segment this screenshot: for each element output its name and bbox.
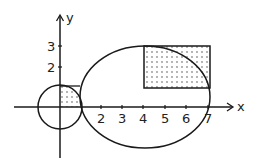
y-tick-label: 2 [47,60,55,75]
x-tick-label: 7 [204,111,212,126]
x-tick-label: 4 [139,111,147,126]
coordinate-diagram: x y 2 3 4 5 6 7 3 2 [0,0,256,163]
y-axis-label: y [66,10,74,25]
dotted-circle-quadrant [60,86,81,107]
x-axis-label: x [237,99,245,114]
x-tick-label: 2 [97,111,105,126]
x-tick-label: 3 [118,111,126,126]
x-tick-label: 5 [161,111,169,126]
x-tick-label: 6 [182,111,190,126]
y-tick-label: 3 [47,39,55,54]
